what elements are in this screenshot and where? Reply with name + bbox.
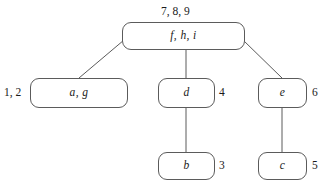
node-root-label: f, h, i bbox=[170, 30, 196, 42]
node-d-number: 4 bbox=[219, 87, 225, 99]
node-d[interactable]: d bbox=[158, 78, 215, 108]
node-d-label: d bbox=[183, 87, 189, 99]
node-root[interactable]: f, h, i bbox=[122, 22, 245, 50]
node-b-label: b bbox=[183, 160, 189, 172]
node-ag-label: a, g bbox=[70, 87, 89, 99]
edge-root-to-ag bbox=[79, 40, 124, 78]
edge-root-to-e bbox=[243, 40, 282, 78]
node-c-label: c bbox=[280, 160, 286, 172]
node-ag[interactable]: a, g bbox=[30, 78, 128, 108]
node-ag-number: 1, 2 bbox=[4, 87, 21, 99]
node-e[interactable]: e bbox=[258, 78, 307, 108]
node-b-number: 3 bbox=[219, 160, 225, 172]
node-root-number: 7, 8, 9 bbox=[161, 6, 190, 18]
tree-diagram: f, h, i a, g d e b c 7, 8, 9 1, 2 4 6 3 … bbox=[0, 0, 327, 187]
node-c-number: 5 bbox=[312, 160, 318, 172]
node-b[interactable]: b bbox=[158, 152, 215, 180]
node-e-number: 6 bbox=[312, 87, 318, 99]
node-e-label: e bbox=[280, 87, 286, 99]
node-c[interactable]: c bbox=[258, 152, 307, 180]
